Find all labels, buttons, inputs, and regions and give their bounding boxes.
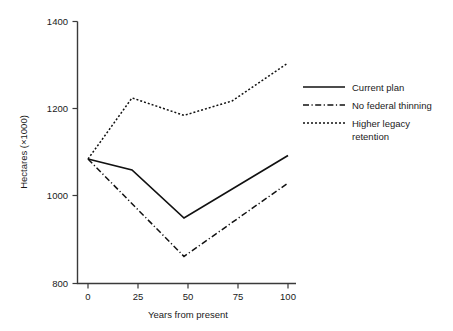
x-axis-ticks — [88, 284, 288, 289]
y-tick-label-1400: 1400 — [47, 16, 68, 27]
series-line-current-plan — [88, 156, 288, 218]
x-tick-label-50: 50 — [183, 291, 194, 302]
chart-axes-lines — [78, 22, 297, 284]
y-axis-title: Hectares (×1000) — [18, 115, 29, 189]
legend-label-no-federal-thinning: No federal thinning — [352, 100, 432, 111]
y-tick-label-800: 800 — [52, 278, 68, 289]
legend-label-higher-legacy-retention-line2: retention — [352, 131, 389, 142]
chart-legend: Current plan No federal thinning Higher … — [303, 82, 432, 142]
y-tick-label-1000: 1000 — [47, 190, 68, 201]
x-tick-label-0: 0 — [85, 291, 90, 302]
y-axis-ticks — [73, 22, 78, 284]
x-tick-label-100: 100 — [280, 291, 296, 302]
series-group — [88, 63, 288, 256]
legend-label-higher-legacy-retention: Higher legacy — [352, 118, 410, 129]
line-chart-figure: 1400 1200 1000 800 0 25 50 75 100 Years … — [0, 0, 453, 331]
legend-label-current-plan: Current plan — [352, 82, 404, 93]
series-line-higher-legacy-retention — [88, 63, 288, 159]
x-tick-label-75: 75 — [233, 291, 244, 302]
x-tick-label-25: 25 — [133, 291, 144, 302]
y-tick-label-1200: 1200 — [47, 103, 68, 114]
x-axis-title: Years from present — [148, 309, 228, 320]
